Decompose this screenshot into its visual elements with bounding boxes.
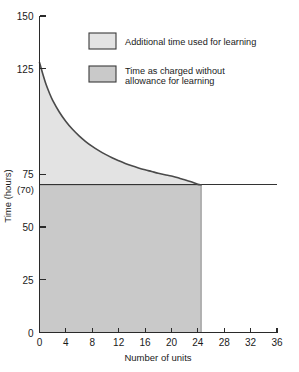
x-tick-label: 4 <box>63 337 69 348</box>
x-tick-label: 16 <box>139 337 151 348</box>
y-tick-label: 25 <box>22 275 34 286</box>
learning-curve-chart: 04812162024283236 0255075125150 (70) Num… <box>0 0 299 372</box>
x-tick-label: 24 <box>192 337 204 348</box>
y-tick-label: 125 <box>17 64 34 75</box>
x-tick-label: 0 <box>37 337 43 348</box>
x-tick-label: 36 <box>271 337 283 348</box>
area-time-as-charged <box>40 185 202 333</box>
y-axis-special-label: (70) <box>17 184 34 195</box>
x-tick-label: 8 <box>89 337 95 348</box>
legend-label-time-charged-line1: Time as charged without <box>125 66 225 76</box>
x-tick-label: 12 <box>113 337 125 348</box>
legend-swatch-time-charged <box>89 66 116 82</box>
y-tick-label: 75 <box>22 169 34 180</box>
chart-canvas: 04812162024283236 0255075125150 (70) Num… <box>0 0 299 372</box>
x-axis-title: Number of units <box>124 352 191 363</box>
y-tick-label: 50 <box>22 222 34 233</box>
legend: Additional time used for learning Time a… <box>89 33 256 86</box>
x-tick-label: 28 <box>219 337 231 348</box>
y-tick-label: 150 <box>17 11 34 22</box>
x-tick-label: 20 <box>166 337 178 348</box>
legend-swatch-additional-time <box>89 33 116 49</box>
legend-label-additional-time: Additional time used for learning <box>125 37 256 47</box>
legend-label-time-charged-line2: allowance for learning <box>125 76 214 86</box>
x-tick-label: 32 <box>245 337 257 348</box>
y-tick-label: 0 <box>28 328 34 339</box>
plot-areas <box>40 62 202 332</box>
y-axis-title: Time (hours) <box>2 169 13 223</box>
